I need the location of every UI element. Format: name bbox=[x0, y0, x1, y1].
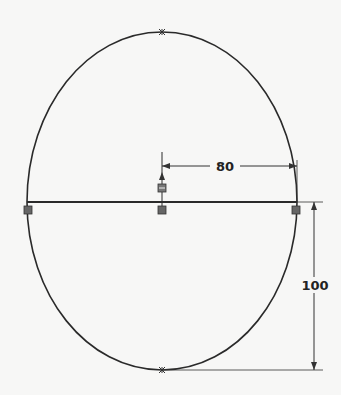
dimension-horizontal[interactable]: 80 bbox=[162, 158, 297, 202]
dimension-vertical[interactable]: 100 bbox=[162, 202, 330, 370]
left-relation-icon[interactable] bbox=[24, 206, 32, 214]
dimension-80-label[interactable]: 80 bbox=[216, 159, 234, 174]
dimension-100-label[interactable]: 100 bbox=[301, 278, 328, 293]
sketch-canvas[interactable]: 80 100 bbox=[0, 0, 341, 395]
center-arrow-icon bbox=[159, 172, 165, 180]
right-relation-icon[interactable] bbox=[292, 206, 300, 214]
center-relation-icon[interactable] bbox=[158, 206, 166, 214]
